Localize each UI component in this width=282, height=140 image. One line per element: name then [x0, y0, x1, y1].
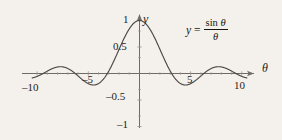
y-tick-label-neg0point5: –0.5	[106, 91, 125, 102]
y-tick-label-1: 1	[123, 14, 129, 25]
y-tick-label-0point5: 0.5	[113, 41, 127, 52]
y-tick-label-neg1: –1	[117, 119, 128, 130]
x-tick-label-neg5: –5	[82, 74, 93, 85]
equation-fraction: sin θ θ	[204, 17, 228, 42]
figure-container: –10 –5 5 10 1 0.5 –0.5 –1 θ y y = sin θ …	[0, 0, 282, 140]
equation-denominator: θ	[211, 30, 220, 42]
y-axis-label: y	[143, 13, 148, 25]
x-tick-label-neg10: –10	[22, 82, 39, 93]
equation-numerator: sin θ	[204, 17, 228, 29]
equation-equals-sign: =	[194, 24, 201, 36]
numerator-theta: θ	[221, 17, 226, 28]
equation-lhs: y	[186, 24, 191, 36]
plot-canvas	[0, 0, 282, 140]
x-tick-label-10: 10	[234, 80, 245, 91]
sin-function-name: sin	[206, 17, 218, 28]
x-axis-label: θ	[262, 62, 268, 74]
equation-annotation: y = sin θ θ	[186, 17, 228, 42]
x-tick-label-5: 5	[187, 74, 193, 85]
